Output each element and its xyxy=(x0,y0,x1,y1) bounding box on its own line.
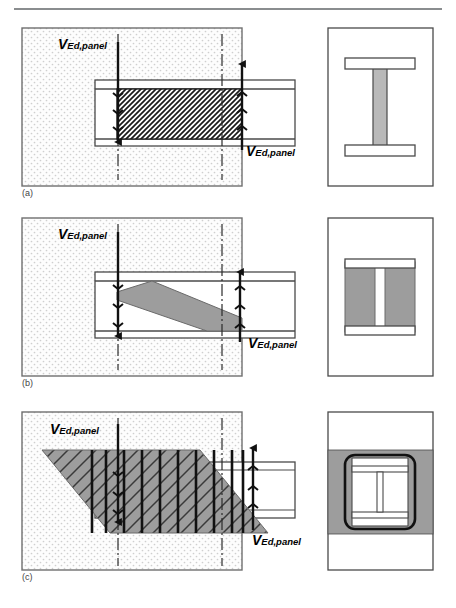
panel-c-load-label-top: VEd,panel xyxy=(50,421,99,437)
load-subscript: Ed,panel xyxy=(67,40,107,51)
panel-b-load-label-bottom: VEd,panel xyxy=(248,335,297,351)
panel-a-load-label-bottom: VEd,panel xyxy=(246,143,295,159)
load-symbol: V xyxy=(248,335,257,351)
header-rule xyxy=(14,8,442,10)
load-symbol: V xyxy=(58,36,67,52)
panel-c-load-label-bottom: VEd,panel xyxy=(252,532,301,548)
panel-b-section-bottom-flange xyxy=(345,326,415,335)
panel-a-section-top-flange xyxy=(345,58,415,69)
panel-b-section-web xyxy=(375,262,385,332)
load-symbol: V xyxy=(50,421,59,437)
panel-a-caption: (a) xyxy=(22,188,33,198)
load-subscript: Ed,panel xyxy=(255,147,295,158)
panel-b-section-top-flange xyxy=(345,259,415,268)
panel-a-section-bottom-flange xyxy=(345,145,415,156)
panel-b-caption: (b) xyxy=(22,378,33,388)
load-symbol: V xyxy=(252,532,261,548)
load-symbol: V xyxy=(246,143,255,159)
panel-a-section-web xyxy=(373,60,387,154)
load-subscript: Ed,panel xyxy=(59,425,99,436)
panel-a-load-label-top: VEd,panel xyxy=(58,36,107,52)
load-subscript: Ed,panel xyxy=(67,230,107,241)
load-symbol: V xyxy=(58,226,67,242)
figure-container: VEd,panel VEd,panel VEd,panel VEd,panel … xyxy=(0,0,456,608)
load-subscript: Ed,panel xyxy=(257,339,297,350)
load-subscript: Ed,panel xyxy=(261,536,301,547)
panel-c-section-bottom-flange xyxy=(352,512,408,518)
shear-panel-diagram xyxy=(0,0,456,608)
panel-c-caption: (c) xyxy=(22,572,33,582)
panel-a-shear-panel-hatched xyxy=(117,89,242,139)
panel-c-section-web xyxy=(377,472,383,512)
panel-b-load-label-top: VEd,panel xyxy=(58,226,107,242)
panel-c-section-top-flange xyxy=(352,466,408,472)
